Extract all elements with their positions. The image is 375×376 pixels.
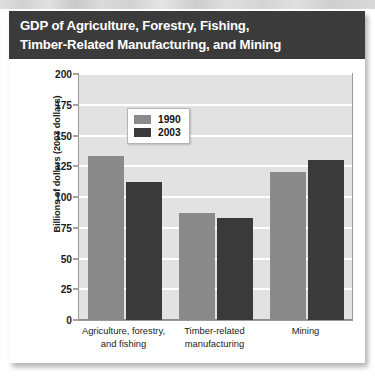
x-axis-label-line: Mining	[260, 325, 351, 338]
bar-1990-1	[179, 213, 215, 320]
y-axis-tick-mark	[73, 135, 78, 136]
chart-body: Billions of dollars (2003 dollars) 02550…	[9, 59, 365, 363]
y-axis-tick-label: 50	[61, 253, 72, 264]
y-axis-tick-mark	[73, 74, 78, 75]
y-axis-tick-label: 125	[55, 161, 72, 172]
chart-legend: 1990 2003	[127, 108, 190, 144]
chart-title-banner: GDP of Agriculture, Forestry, Fishing, T…	[9, 11, 365, 59]
gridline	[79, 104, 352, 106]
legend-item-1990: 1990	[134, 113, 181, 126]
legend-label-1990: 1990	[158, 114, 181, 125]
y-axis-tick-label: 100	[55, 192, 72, 203]
scan-edge-artifact	[0, 0, 375, 9]
y-axis-tick-label: 75	[61, 222, 72, 233]
y-axis-tick-mark	[73, 258, 78, 259]
plot-frame: 0255075100125150175200	[78, 73, 353, 321]
x-axis-category-label: Mining	[260, 325, 351, 338]
x-axis-label-line: manufacturing	[169, 338, 260, 351]
y-axis-tick-mark	[73, 320, 78, 321]
plot-area: 0255075100125150175200	[79, 74, 352, 320]
bar-2003-2	[308, 160, 344, 320]
chart-title-line-1: GDP of Agriculture, Forestry, Fishing,	[20, 16, 365, 35]
figure-card: GDP of Agriculture, Forestry, Fishing, T…	[9, 11, 365, 363]
x-axis-label-line: Timber-related	[169, 325, 260, 338]
x-axis-category-labels: Agriculture, forestry,and fishingTimber-…	[78, 325, 353, 359]
gridline	[79, 73, 352, 75]
y-axis-tick-mark	[73, 197, 78, 198]
y-axis-tick-label: 150	[55, 130, 72, 141]
legend-swatch-2003-icon	[134, 128, 151, 137]
legend-label-2003: 2003	[158, 127, 181, 138]
y-axis-tick-mark	[73, 166, 78, 167]
y-axis-tick-mark	[73, 104, 78, 105]
bar-2003-1	[217, 218, 253, 320]
y-axis-tick-label: 200	[55, 69, 72, 80]
y-axis-tick-label: 175	[55, 99, 72, 110]
y-axis-tick-mark	[73, 227, 78, 228]
y-axis-tick-label: 25	[61, 284, 72, 295]
legend-item-2003: 2003	[134, 126, 181, 139]
x-axis-category-label: Timber-relatedmanufacturing	[169, 325, 260, 350]
x-axis-label-line: and fishing	[78, 338, 169, 351]
y-axis-tick-mark	[73, 289, 78, 290]
y-axis-tick-label: 0	[66, 315, 72, 326]
legend-swatch-1990-icon	[134, 115, 151, 124]
bar-2003-0	[126, 182, 162, 320]
chart-title-line-2: Timber-Related Manufacturing, and Mining	[20, 35, 365, 54]
x-axis-label-line: Agriculture, forestry,	[78, 325, 169, 338]
bar-1990-0	[88, 156, 124, 320]
bar-1990-2	[270, 172, 306, 320]
gridline	[79, 135, 352, 137]
x-axis-category-label: Agriculture, forestry,and fishing	[78, 325, 169, 350]
